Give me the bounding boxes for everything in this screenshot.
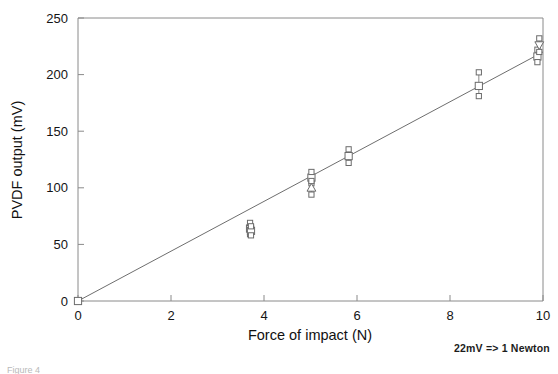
x-tick-label: 8: [446, 308, 453, 323]
error-bar-cap: [248, 224, 253, 229]
error-bar-cap: [476, 94, 481, 99]
y-axis-title: PVDF output (mV): [9, 101, 25, 219]
x-tick-label: 0: [74, 308, 81, 323]
axes-group: [78, 18, 543, 301]
figure-caption: Figure 4: [7, 365, 40, 374]
error-bar-cap: [535, 60, 540, 65]
y-tick-label: 200: [46, 67, 68, 82]
y-tick-label: 100: [46, 180, 68, 195]
error-bar-cap: [537, 36, 542, 41]
y-tick-label: 50: [54, 237, 68, 252]
x-tick-label: 2: [167, 308, 174, 323]
x-tick-label: 4: [260, 308, 267, 323]
error-bar-cap: [346, 160, 351, 165]
data-marker-square: [345, 153, 352, 160]
error-bar-cap: [309, 169, 314, 174]
error-bar-cap: [309, 192, 314, 197]
y-tick-label: 150: [46, 124, 68, 139]
data-marker-square: [475, 82, 482, 89]
y-tick-label: 250: [46, 11, 68, 26]
error-bar-cap: [309, 178, 314, 183]
error-bar-cap: [346, 147, 351, 152]
x-tick-label: 10: [536, 308, 550, 323]
error-bar-cap: [476, 70, 481, 75]
data-points-group: [74, 36, 543, 305]
conversion-annotation: 22mV => 1 Newton: [454, 342, 550, 354]
x-axis-title: Force of impact (N): [248, 327, 372, 343]
data-marker-square: [74, 297, 81, 304]
x-axis-ticks: 0246810: [74, 295, 550, 323]
x-tick-label: 6: [353, 308, 360, 323]
error-bar-cap: [248, 233, 253, 238]
error-bar-cap: [537, 49, 542, 54]
y-tick-label: 0: [61, 294, 68, 309]
